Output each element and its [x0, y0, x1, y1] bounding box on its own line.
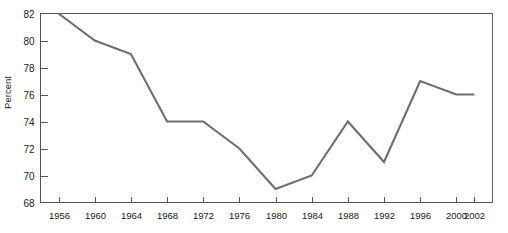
y-tick-label: 74	[23, 117, 35, 128]
axis-frame	[41, 14, 493, 203]
y-tick-label: 78	[23, 63, 35, 74]
x-axis-ticks: 1956196019641968197219761980198419881992…	[49, 197, 485, 221]
line-chart-plot: 8280787674727068 19561960196419681972197…	[0, 0, 508, 233]
x-tick-label: 1964	[121, 210, 142, 221]
y-axis-ticks: 8280787674727068	[23, 9, 47, 209]
x-tick-label: 1988	[338, 210, 359, 221]
x-tick-label: 1976	[229, 210, 250, 221]
y-tick-label: 76	[23, 90, 35, 101]
axes	[41, 14, 493, 203]
data-series-group	[59, 14, 475, 190]
y-tick-label: 80	[23, 36, 35, 47]
x-tick-label: 1984	[302, 210, 323, 221]
x-tick-label: 1996	[410, 210, 431, 221]
x-tick-label: 1992	[374, 210, 395, 221]
x-tick-label: 1968	[157, 210, 178, 221]
x-tick-label: 2002	[464, 210, 485, 221]
x-tick-label: 1972	[193, 210, 214, 221]
x-tick-label: 1960	[85, 210, 106, 221]
x-tick-label: 1956	[49, 210, 70, 221]
y-tick-label: 68	[23, 198, 35, 209]
y-tick-label: 70	[23, 171, 35, 182]
y-tick-label: 82	[23, 9, 35, 20]
x-tick-label: 1980	[266, 210, 287, 221]
data-line-percent	[59, 14, 475, 190]
y-tick-label: 72	[23, 144, 35, 155]
chart-figure: Percent 8280787674727068 195619601964196…	[0, 0, 508, 233]
